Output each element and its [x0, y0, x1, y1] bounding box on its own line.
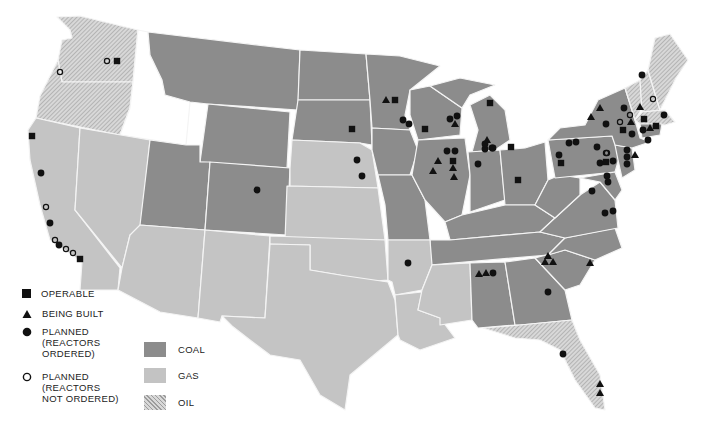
- planned-ordered-marker: [640, 127, 647, 134]
- planned-ordered-marker: [452, 148, 459, 155]
- state-washington: [57, 16, 138, 82]
- planned-ordered-marker: [475, 161, 482, 168]
- state-arizona: [118, 225, 205, 318]
- planned-ordered-marker: [406, 121, 413, 128]
- planned-ordered-marker: [254, 187, 261, 194]
- state-florida: [483, 320, 605, 410]
- legend-label: OPERABLE: [41, 288, 95, 299]
- legend-label: BEING BUILT: [42, 308, 104, 319]
- state-south-dakota: [292, 100, 372, 145]
- legend-label-line: ORDERED): [42, 348, 100, 359]
- state-utah: [140, 140, 210, 230]
- operable-marker: [114, 58, 120, 64]
- operable-marker: [349, 126, 355, 132]
- planned-ordered-marker: [604, 173, 611, 180]
- operable-marker: [620, 127, 626, 133]
- planned-ordered-marker: [645, 137, 652, 144]
- operable-marker: [653, 123, 659, 129]
- legend-item-being-built: BEING BUILT: [22, 308, 104, 319]
- planned-ordered-marker: [444, 148, 451, 155]
- triangle-icon: [22, 309, 32, 319]
- state-north-dakota: [298, 50, 370, 100]
- legend-item-gas: GAS: [144, 368, 199, 383]
- legend-item-operable: OPERABLE: [22, 288, 95, 299]
- planned-ordered-marker: [47, 220, 54, 227]
- planned-ordered-marker: [621, 105, 628, 112]
- planned-ordered-marker: [566, 140, 573, 147]
- gas-swatch: [144, 368, 166, 383]
- legend-label-line: NOT ORDERED): [42, 393, 119, 404]
- legend-label-line: (REACTORS: [42, 337, 100, 348]
- square-icon: [22, 289, 31, 298]
- operable-marker: [392, 97, 398, 103]
- planned-ordered-marker: [661, 112, 668, 119]
- legend-label-line: PLANNED: [42, 326, 100, 337]
- legend-item-coal: COAL: [144, 342, 205, 357]
- legend-label-line: PLANNED: [42, 371, 119, 382]
- operable-marker: [558, 160, 564, 166]
- legend-label: OIL: [178, 397, 194, 408]
- planned-ordered-marker: [629, 131, 636, 138]
- state-colorado: [205, 162, 290, 235]
- planned-ordered-marker: [359, 173, 366, 180]
- planned-ordered-marker: [589, 188, 596, 195]
- planned-ordered-marker: [354, 157, 361, 164]
- oil-swatch: [144, 395, 166, 410]
- legend-item-planned-not-ordered: PLANNED (REACTORS NOT ORDERED): [22, 371, 119, 404]
- planned-ordered-marker: [639, 72, 646, 79]
- operable-marker: [641, 116, 647, 122]
- legend-item-oil: OIL: [144, 395, 194, 410]
- operable-marker: [515, 177, 521, 183]
- state-iowa: [372, 128, 418, 175]
- planned-ordered-marker: [573, 139, 580, 146]
- state-nebraska: [290, 140, 378, 188]
- planned-ordered-marker: [594, 144, 601, 151]
- planned-ordered-marker: [624, 161, 631, 168]
- planned-ordered-marker: [603, 121, 610, 128]
- planned-ordered-marker: [560, 351, 567, 358]
- state-wyoming: [200, 104, 290, 168]
- planned-ordered-marker: [605, 179, 612, 186]
- planned-ordered-marker: [602, 210, 609, 217]
- state-kansas: [285, 186, 385, 240]
- planned-ordered-marker: [610, 158, 617, 165]
- planned-ordered-marker: [490, 145, 497, 152]
- legend-label: COAL: [178, 344, 205, 355]
- planned-ordered-marker: [400, 117, 407, 124]
- planned-ordered-marker: [597, 160, 604, 167]
- legend-label: GAS: [178, 370, 199, 381]
- filled-circle-icon: [22, 327, 32, 337]
- planned-ordered-marker: [38, 170, 45, 177]
- operable-marker: [487, 100, 493, 106]
- legend-item-planned-ordered: PLANNED (REACTORS ORDERED): [22, 326, 100, 359]
- planned-ordered-marker: [454, 113, 461, 120]
- operable-marker: [422, 126, 428, 132]
- planned-ordered-marker: [490, 270, 497, 277]
- planned-ordered-marker: [556, 152, 563, 159]
- operable-marker: [508, 144, 514, 150]
- state-indiana: [468, 150, 505, 212]
- operable-marker: [77, 256, 83, 262]
- operable-marker: [450, 158, 456, 164]
- planned-ordered-marker: [624, 154, 631, 161]
- planned-ordered-marker: [56, 242, 63, 249]
- coal-swatch: [144, 342, 166, 357]
- planned-ordered-marker: [545, 289, 552, 296]
- legend-label-line: (REACTORS: [42, 382, 119, 393]
- open-circle-icon: [22, 372, 32, 382]
- planned-ordered-marker: [624, 147, 631, 154]
- planned-ordered-marker: [447, 116, 454, 123]
- planned-ordered-marker: [610, 208, 617, 215]
- us-fuel-map: [0, 0, 716, 425]
- operable-marker: [603, 159, 609, 165]
- state-new-mexico: [198, 230, 270, 322]
- planned-ordered-marker: [405, 260, 412, 267]
- planned-ordered-marker: [482, 141, 489, 148]
- operable-marker: [29, 133, 35, 139]
